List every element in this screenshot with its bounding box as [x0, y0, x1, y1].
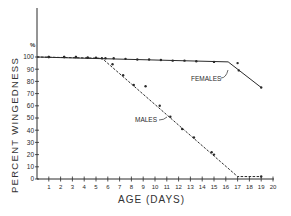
y-tick-label: 100 [23, 53, 34, 60]
x-axis-label: AGE (DAYS) [118, 194, 185, 205]
x-tick-label: 7 [118, 184, 122, 190]
females-point [238, 69, 240, 71]
males-point [193, 136, 195, 138]
x-tick-label: 9 [142, 184, 146, 190]
y-tick-label: 30 [27, 139, 35, 146]
x-tick-label: 5 [94, 184, 98, 190]
females-point [213, 61, 215, 63]
females-point [136, 58, 138, 60]
x-tick-label: 2 [59, 184, 63, 190]
y-tick-label: 70 [27, 90, 35, 97]
males-point [101, 57, 103, 59]
males-point [181, 128, 183, 130]
males-point [159, 105, 161, 107]
males-point [133, 84, 135, 86]
males-point [111, 63, 113, 65]
x-tick-label: 10 [152, 184, 159, 190]
series-annotations: FEMALESMALES [135, 70, 228, 123]
males-point [210, 151, 212, 153]
x-tick-label: 18 [246, 184, 253, 190]
y-tick-label: 20 [27, 151, 35, 158]
x-tick-label: 12 [175, 184, 182, 190]
x-tick-label: 16 [222, 184, 229, 190]
x-tick-label: 14 [199, 184, 206, 190]
wingedness-chart: 0102030405060708090100 12345678910111213… [0, 0, 291, 216]
females-point [172, 59, 174, 61]
y-tick-label: 0 [30, 175, 34, 182]
x-tick-label: 3 [71, 184, 75, 190]
females-point [113, 57, 115, 59]
y-tick-label: 80 [27, 78, 35, 85]
males-point [122, 74, 124, 76]
x-tick-label: 19 [258, 184, 265, 190]
y-tick-label: 40 [27, 127, 35, 134]
males-point [169, 116, 171, 118]
females-point [160, 59, 162, 61]
y-tick-label: 90 [27, 66, 35, 73]
y-tick-label: 50 [27, 114, 35, 121]
y-tick-label: 60 [27, 102, 35, 109]
females-point [195, 60, 197, 62]
x-tick-label: 20 [270, 184, 277, 190]
x-tick-label: 11 [164, 184, 171, 190]
females-point [236, 62, 238, 64]
males-point [213, 153, 215, 155]
axes [37, 8, 274, 179]
females-point [104, 57, 106, 59]
females-point [183, 59, 185, 61]
males-point [75, 56, 77, 58]
females-point [124, 58, 126, 60]
x-tick-label: 6 [106, 184, 110, 190]
females-label: FEMALES [191, 75, 222, 82]
x-tick-label: 1 [47, 184, 51, 190]
y-tick-label: 10 [27, 163, 35, 170]
males-point [144, 85, 146, 87]
x-tick-label: 15 [211, 184, 218, 190]
males-point [260, 175, 262, 177]
females-point [260, 86, 262, 88]
males-point [48, 56, 50, 58]
x-tick-label: 13 [187, 184, 194, 190]
y-axis-label: PERCENT WINGEDNESS [9, 57, 20, 193]
x-tick-label: 8 [130, 184, 134, 190]
females-point [148, 58, 150, 60]
x-tick-label: 17 [234, 184, 241, 190]
percent-unit-label: % [30, 42, 35, 48]
males-label: MALES [135, 116, 158, 123]
x-tick-label: 4 [83, 184, 87, 190]
males-point [63, 56, 65, 58]
males-point [87, 56, 89, 58]
